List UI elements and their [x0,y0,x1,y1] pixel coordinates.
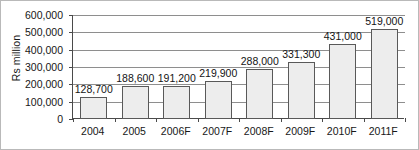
y-axis-tick-label: 100,000 [15,97,63,107]
x-axis-tick-label: 2011F [357,125,409,137]
bar[interactable] [371,29,398,119]
bar-chart: Rs million 600,000 500,000 400,000 300,0… [0,0,419,150]
bar-series: 128,700188,600191,200219,900288,000331,3… [73,15,405,119]
bar-value-label: 431,000 [317,31,369,42]
y-axis-tick-label: 500,000 [15,27,63,37]
bar[interactable] [122,86,149,119]
bar-slot [364,15,406,119]
y-axis-tick-labels: 600,000 500,000 400,000 300,000 200,000 … [15,1,63,150]
bar-value-label: 219,900 [192,68,244,79]
y-axis-tick-label: 300,000 [15,62,63,72]
bar-value-label: 331,300 [275,49,327,60]
bar-slot [115,15,157,119]
bar[interactable] [205,81,232,119]
x-axis-tick-labels: 200420052006F2007F2008F2009F2010F2011F [72,125,404,141]
y-axis-tick-label: 200,000 [15,79,63,89]
bar[interactable] [288,62,315,119]
bar-value-label: 519,000 [358,16,410,27]
plot-area: 128,700188,600191,200219,900288,000331,3… [72,15,404,119]
x-axis-tick [405,118,406,122]
y-axis-tick-label: 600,000 [15,10,63,20]
bar-value-label: 128,700 [68,84,120,95]
bar-slot [73,15,115,119]
y-axis-tick-label: 0 [15,114,63,124]
bar[interactable] [246,69,273,119]
bar[interactable] [80,97,107,119]
bar[interactable] [329,44,356,119]
bar[interactable] [163,86,190,119]
y-axis-tick-label: 400,000 [15,45,63,55]
